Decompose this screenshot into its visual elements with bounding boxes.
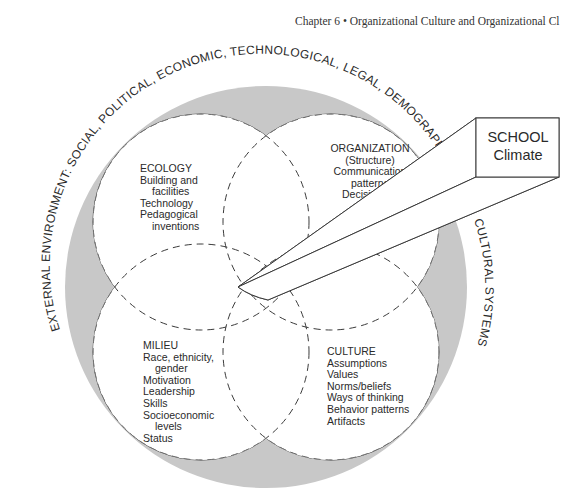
beam-overlay	[0, 0, 577, 502]
school-climate-box-label: SCHOOL Climate	[476, 128, 560, 164]
